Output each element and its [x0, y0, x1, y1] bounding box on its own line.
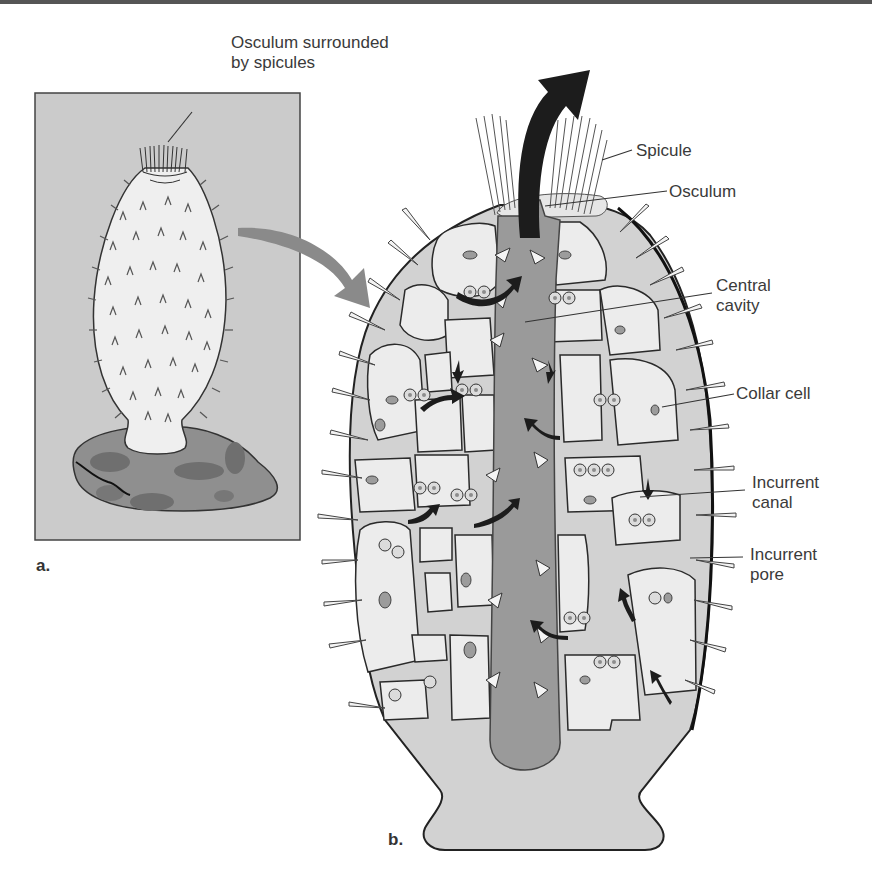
- panel-a-illustration: [35, 93, 300, 540]
- label-line-2: cavity: [716, 296, 771, 316]
- label-line-1: Osculum surrounded: [231, 33, 389, 53]
- label-line-1: Central: [716, 276, 771, 296]
- incurrent-canal-label: Incurrent canal: [752, 473, 819, 513]
- central-cavity: [490, 200, 560, 770]
- collar-cell-label: Collar cell: [736, 384, 811, 404]
- label-line-2: pore: [750, 565, 817, 585]
- osculum-spicules-label: Osculum surrounded by spicules: [231, 33, 389, 73]
- label-line-2: canal: [752, 493, 819, 513]
- panel-b-letter: b.: [388, 830, 403, 850]
- central-cavity-label: Central cavity: [716, 276, 771, 316]
- label-line-2: by spicules: [231, 53, 389, 73]
- sponge-diagram: [0, 0, 872, 879]
- spicule-label: Spicule: [636, 141, 692, 161]
- panel-a-letter: a.: [36, 556, 50, 576]
- label-line-1: Incurrent: [750, 545, 817, 565]
- incurrent-pore-label: Incurrent pore: [750, 545, 817, 585]
- label-line-1: Incurrent: [752, 473, 819, 493]
- osculum-label: Osculum: [669, 182, 736, 202]
